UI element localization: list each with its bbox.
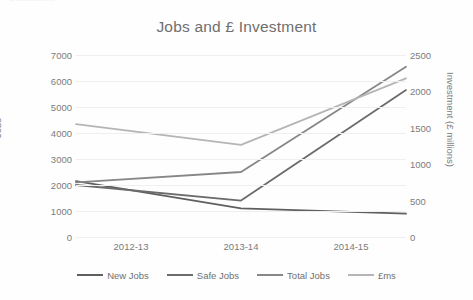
plot-area <box>76 55 406 237</box>
gridline <box>76 81 406 82</box>
chart-legend: New JobsSafe JobsTotal Jobs£ms <box>0 266 473 284</box>
y-tick-label: 0 <box>30 232 72 243</box>
x-tick-label: 2013-14 <box>186 241 296 257</box>
gridline <box>76 107 406 108</box>
x-tick-label: 2014-15 <box>296 241 406 257</box>
legend-line-icon <box>257 274 283 277</box>
y-tick-label: 7000 <box>30 50 72 61</box>
chart-title: Jobs and £ Investment <box>0 18 473 36</box>
y-axis-left-title: Jobs <box>0 118 3 138</box>
x-tick-label: 2012-13 <box>76 241 186 257</box>
y-tick-label: 2000 <box>30 180 72 191</box>
legend-line-icon <box>167 274 193 277</box>
gridline <box>76 211 406 212</box>
y-tick-label: 1000 <box>30 206 72 217</box>
series-line <box>76 78 406 145</box>
x-axis-labels: 2012-132013-142014-15 <box>76 241 406 257</box>
legend-label: Total Jobs <box>287 270 330 281</box>
gridline <box>76 237 406 238</box>
y-axis-right-title: Investment (£ millions) <box>445 72 456 167</box>
clipped-text: ................ <box>10 0 55 3</box>
y2-tick-label: 2500 <box>410 50 452 61</box>
legend-item[interactable]: New Jobs <box>77 270 149 281</box>
legend-label: New Jobs <box>107 270 149 281</box>
series-lines <box>76 55 406 237</box>
clipped-text-artifact: ................ <box>0 0 473 6</box>
legend-item[interactable]: Safe Jobs <box>167 270 239 281</box>
series-line <box>76 67 406 183</box>
y-tick-label: 6000 <box>30 76 72 87</box>
gridline <box>76 185 406 186</box>
legend-line-icon <box>348 274 374 277</box>
chart-container: ................ Jobs and £ Investment 7… <box>0 0 473 300</box>
y-tick-label: 3000 <box>30 154 72 165</box>
legend-item[interactable]: Total Jobs <box>257 270 330 281</box>
y2-tick-label: 0 <box>410 232 452 243</box>
gridline <box>76 159 406 160</box>
y-axis-left-ticks: 70006000500040003000200010000 <box>30 55 72 237</box>
legend-label: £ms <box>378 270 396 281</box>
legend-line-icon <box>77 274 103 277</box>
y-tick-label: 4000 <box>30 128 72 139</box>
y-tick-label: 5000 <box>30 102 72 113</box>
gridline <box>76 55 406 56</box>
gridline <box>76 133 406 134</box>
legend-item[interactable]: £ms <box>348 270 396 281</box>
y2-tick-label: 500 <box>410 195 452 206</box>
legend-label: Safe Jobs <box>197 270 239 281</box>
